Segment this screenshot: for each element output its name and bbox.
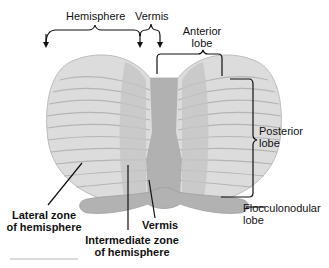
intermediate-zone-left <box>120 62 146 200</box>
intermediate-zone-right <box>182 62 208 200</box>
anterior-lobe-label: Anterior lobe <box>177 25 227 49</box>
vermis-top-label: Vermis <box>135 10 169 22</box>
posterior-lobe-label: Posterior lobe <box>259 125 303 149</box>
vermis-bottom-label: Vermis <box>142 219 178 231</box>
vermis-strip <box>146 78 182 196</box>
intermediate-zone-label: Intermediate zone of hemisphere <box>82 234 182 258</box>
lateral-zone-label: Lateral zone of hemisphere <box>6 209 82 233</box>
hemisphere-brace <box>46 25 140 44</box>
vermis-brace <box>140 24 160 44</box>
flocculonodular-lobe-label: Flocculonodular lobe <box>243 202 321 226</box>
hemisphere-label: Hemisphere <box>66 10 125 22</box>
